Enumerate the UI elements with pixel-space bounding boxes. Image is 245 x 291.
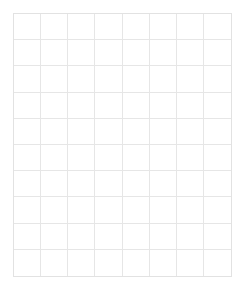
grid-cell[interactable] (95, 119, 122, 145)
grid-cell[interactable] (150, 250, 177, 276)
grid-cell[interactable] (41, 224, 68, 250)
grid-cell[interactable] (68, 93, 95, 119)
grid-cell[interactable] (95, 40, 122, 66)
grid-cell[interactable] (177, 40, 204, 66)
grid-cell[interactable] (123, 40, 150, 66)
grid-cell[interactable] (177, 197, 204, 223)
grid-cell[interactable] (41, 119, 68, 145)
grid-cell[interactable] (177, 250, 204, 276)
grid-cell[interactable] (177, 145, 204, 171)
grid-cell[interactable] (204, 224, 231, 250)
grid-cell[interactable] (68, 66, 95, 92)
grid-cell[interactable] (41, 250, 68, 276)
grid-cell[interactable] (150, 197, 177, 223)
grid-cell[interactable] (177, 66, 204, 92)
grid-cell[interactable] (14, 119, 41, 145)
grid-cell[interactable] (150, 66, 177, 92)
grid-cell[interactable] (41, 171, 68, 197)
grid-cell[interactable] (123, 250, 150, 276)
grid-cell[interactable] (150, 224, 177, 250)
grid-cell[interactable] (41, 145, 68, 171)
grid-cell[interactable] (204, 40, 231, 66)
page-canvas (0, 0, 245, 291)
grid-row (14, 145, 231, 171)
grid-cell[interactable] (177, 171, 204, 197)
grid-row (14, 224, 231, 250)
grid-row (14, 93, 231, 119)
grid-cell[interactable] (95, 14, 122, 40)
grid-cell[interactable] (41, 40, 68, 66)
grid-cell[interactable] (204, 14, 231, 40)
grid-cell[interactable] (123, 119, 150, 145)
grid-cell[interactable] (123, 171, 150, 197)
grid-cell[interactable] (95, 145, 122, 171)
grid-cell[interactable] (150, 145, 177, 171)
grid-cell[interactable] (177, 119, 204, 145)
grid-cell[interactable] (204, 93, 231, 119)
grid-cell[interactable] (14, 93, 41, 119)
grid-cell[interactable] (14, 40, 41, 66)
grid-row (14, 14, 231, 40)
grid-cell[interactable] (14, 66, 41, 92)
grid-cell[interactable] (68, 250, 95, 276)
grid-cell[interactable] (68, 224, 95, 250)
grid-cell[interactable] (150, 14, 177, 40)
grid-table[interactable] (13, 13, 232, 277)
grid-cell[interactable] (68, 171, 95, 197)
grid-cell[interactable] (95, 171, 122, 197)
grid-cell[interactable] (14, 171, 41, 197)
grid-cell[interactable] (14, 250, 41, 276)
grid-cell[interactable] (41, 14, 68, 40)
grid-cell[interactable] (68, 197, 95, 223)
grid-cell[interactable] (14, 145, 41, 171)
grid-cell[interactable] (177, 224, 204, 250)
grid-cell[interactable] (123, 197, 150, 223)
grid-cell[interactable] (41, 66, 68, 92)
grid-row (14, 250, 231, 276)
grid-row (14, 66, 231, 92)
grid-cell[interactable] (204, 145, 231, 171)
grid-cell[interactable] (68, 14, 95, 40)
grid-cell[interactable] (14, 197, 41, 223)
grid-row (14, 171, 231, 197)
grid-cell[interactable] (150, 40, 177, 66)
grid-cell[interactable] (41, 93, 68, 119)
grid-cell[interactable] (123, 66, 150, 92)
grid-row (14, 197, 231, 223)
grid-cell[interactable] (68, 40, 95, 66)
grid-row (14, 119, 231, 145)
grid-cell[interactable] (177, 14, 204, 40)
grid-cell[interactable] (204, 250, 231, 276)
grid-cell[interactable] (123, 224, 150, 250)
grid-cell[interactable] (68, 119, 95, 145)
grid-cell[interactable] (150, 93, 177, 119)
grid-cell[interactable] (150, 171, 177, 197)
grid-cell[interactable] (123, 145, 150, 171)
grid-cell[interactable] (204, 197, 231, 223)
grid-cell[interactable] (95, 93, 122, 119)
grid-cell[interactable] (95, 250, 122, 276)
grid-cell[interactable] (68, 145, 95, 171)
grid-cell[interactable] (95, 66, 122, 92)
grid-cell[interactable] (95, 197, 122, 223)
grid-cell[interactable] (204, 66, 231, 92)
grid-cell[interactable] (123, 93, 150, 119)
grid-cell[interactable] (95, 224, 122, 250)
grid-cell[interactable] (204, 119, 231, 145)
grid-cell[interactable] (41, 197, 68, 223)
grid-cell[interactable] (150, 119, 177, 145)
grid-cell[interactable] (204, 171, 231, 197)
grid-cell[interactable] (123, 14, 150, 40)
grid-cell[interactable] (177, 93, 204, 119)
grid-cell[interactable] (14, 224, 41, 250)
grid-cell[interactable] (14, 14, 41, 40)
grid-row (14, 40, 231, 66)
